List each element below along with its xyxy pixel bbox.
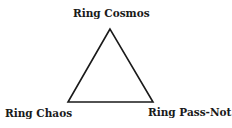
label-ring-chaos: Ring Chaos [5, 108, 72, 119]
label-ring-cosmos: Ring Cosmos [73, 8, 150, 19]
label-ring-pass-not: Ring Pass-Not [148, 107, 231, 118]
diagram-canvas: Ring Cosmos Ring Chaos Ring Pass-Not [0, 0, 232, 128]
